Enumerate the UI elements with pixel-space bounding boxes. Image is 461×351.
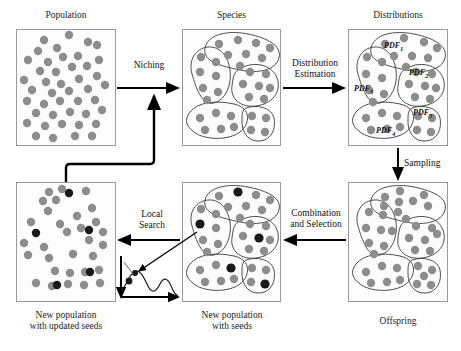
caption-species: Species	[182, 10, 281, 21]
label-line-2: Estimation	[283, 69, 347, 80]
caption-new-population-seeds: New population with seeds	[172, 310, 292, 332]
pdf-label-2: PDF2	[409, 68, 428, 79]
arrow-label-distribution-estimation: Distribution Estimation	[283, 58, 347, 80]
arrow-label-combination-and-selection: Combination and Selection	[283, 208, 349, 230]
caption-distributions: Distributions	[348, 10, 448, 21]
panel-population	[16, 29, 116, 146]
pdf-label-4: PDF4	[376, 126, 395, 137]
arrow-label-sampling: Sampling	[404, 158, 460, 169]
pdf-label-5: PDF5	[413, 108, 432, 119]
caption-population: Population	[16, 10, 116, 21]
label-line-1: Distribution	[283, 58, 347, 69]
arrow-label-local-search: Local Search	[124, 209, 180, 231]
caption-line-1: New population	[6, 310, 126, 321]
caption-offspring: Offspring	[348, 316, 448, 327]
local-search-seed-dot	[126, 278, 133, 285]
label-line-1: Local	[124, 209, 180, 220]
local-search-peak-dot	[132, 270, 138, 276]
label-line-2: Search	[124, 220, 180, 231]
panel-new-population-seeds	[182, 182, 281, 302]
label-line-1: Combination	[283, 208, 349, 219]
caption-new-population-updated-seeds: New population with updated seeds	[6, 310, 126, 332]
caption-line-2: with updated seeds	[6, 321, 126, 332]
label-line-2: and Selection	[283, 219, 349, 230]
diagram-canvas: Population Species Distributions New pop…	[0, 0, 461, 351]
pdf-label-1: PDF1	[384, 41, 403, 52]
caption-line-2: with seeds	[172, 321, 292, 332]
panel-new-population-updated-seeds	[16, 182, 116, 302]
caption-line-1: New population	[172, 310, 292, 321]
arrow-label-niching: Niching	[118, 60, 180, 71]
panel-species	[182, 29, 281, 146]
pdf-label-3: PDF3	[354, 84, 373, 95]
panel-offspring	[348, 182, 448, 302]
